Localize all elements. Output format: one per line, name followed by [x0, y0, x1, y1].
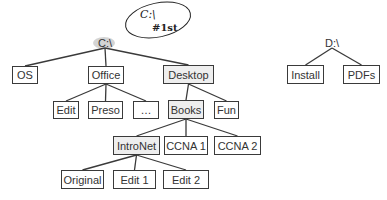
edge-c-os — [25, 48, 105, 66]
root-c-label: C:\ — [98, 37, 112, 49]
folder-node-original: Original — [61, 170, 104, 189]
folder-node-edit1: Edit 1 — [113, 170, 156, 189]
edge-intronet-edit2 — [137, 155, 187, 170]
annotation-text-line2: #1st — [152, 22, 178, 33]
edge-books-ccna2 — [186, 119, 238, 136]
folder-node-edit: Edit — [53, 101, 79, 119]
folder-node-ccna2: CCNA 2 — [214, 136, 261, 155]
root-d-label: D:\ — [325, 37, 339, 49]
edge-intronet-edit1 — [135, 155, 137, 170]
folder-node-intronet: IntroNet — [113, 136, 160, 155]
edge-desktop-books — [186, 84, 189, 100]
folder-node-pdfs: PDFs — [343, 65, 380, 84]
folder-node-ccna1: CCNA 1 — [164, 136, 208, 155]
folder-node-edit2: Edit 2 — [163, 170, 209, 189]
edge-c-office — [105, 48, 106, 66]
edge-office-edit — [66, 84, 106, 101]
folder-node-books: Books — [168, 100, 204, 119]
edge-d-install — [306, 48, 333, 65]
edge-office-ellipsis — [106, 84, 146, 101]
edge-desktop-fun — [189, 84, 227, 101]
edge-c-desktop — [105, 48, 189, 65]
folder-node-fun: Fun — [214, 101, 239, 119]
folder-node-office: Office — [88, 66, 124, 84]
edge-office-preso — [106, 84, 107, 101]
folder-node-desktop: Desktop — [163, 65, 214, 84]
folder-node-install: Install — [287, 65, 324, 84]
edge-books-intronet — [137, 119, 187, 136]
directory-tree-diagram: C:\#1st C:\OSOfficeDesktopEditPreso…Book… — [0, 0, 387, 200]
edge-intronet-original — [83, 155, 137, 170]
folder-node-preso: Preso — [88, 101, 123, 119]
edge-d-pdfs — [332, 48, 362, 65]
folder-node-os: OS — [12, 66, 38, 84]
folder-node-ellipsis: … — [133, 101, 159, 119]
annotation-text-line1: C:\ — [140, 8, 156, 21]
